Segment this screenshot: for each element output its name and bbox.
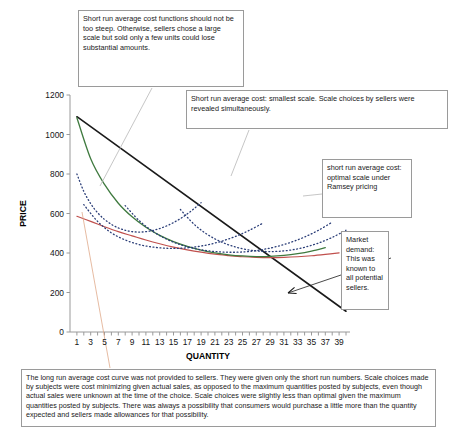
y-axis-tick-label: 1200: [45, 90, 64, 100]
x-axis-tick-label: 21: [210, 337, 220, 347]
curve-market-demand: [77, 117, 346, 312]
y-axis-tick-label: 0: [59, 327, 64, 337]
x-axis-tick-label: 1: [75, 337, 80, 347]
x-axis-tick-label: 23: [224, 337, 234, 347]
x-axis-tick-label: 27: [252, 337, 262, 347]
y-axis-tick-label: 600: [50, 209, 64, 219]
callout-ramsey-optimal-scale: short run average cost: optimal scale un…: [322, 159, 412, 218]
axis-labels-layer: 0200400600800100012001357911131517192123…: [18, 90, 344, 361]
x-axis-tick-label: 25: [238, 337, 248, 347]
y-axis-tick-label: 400: [50, 248, 64, 258]
curve-short-run-average-cost-optimal-scale-under-ramsey-pricing: [77, 118, 325, 257]
x-axis-title: QUANTITY: [186, 351, 230, 361]
smallest-scale-leader: [231, 130, 249, 176]
callout-market-demand: Market demand: This was known to all pot…: [341, 231, 389, 310]
x-axis-tick-label: 17: [183, 337, 193, 347]
callout-short-run-slope-note: Short run average cost functions should …: [78, 10, 244, 87]
y-axis-title: PRICE: [18, 200, 28, 227]
x-axis-tick-label: 15: [169, 337, 179, 347]
y-axis-tick-label: 200: [50, 288, 64, 298]
x-axis-tick-label: 33: [293, 337, 303, 347]
x-axis-tick-label: 35: [307, 337, 317, 347]
x-axis-tick-label: 29: [265, 337, 275, 347]
x-axis-tick-label: 31: [279, 337, 289, 347]
x-axis-tick-label: 9: [130, 337, 135, 347]
x-axis-tick-label: 13: [155, 337, 165, 347]
x-axis-tick-label: 39: [334, 337, 344, 347]
x-axis-tick-label: 19: [196, 337, 206, 347]
ramsey-leader: [303, 194, 322, 196]
curves-layer: [77, 117, 346, 312]
y-axis-tick-label: 1000: [45, 130, 64, 140]
axes-layer: [67, 95, 351, 336]
callout-bottom-explanatory-note: The long run average cost curve was not …: [21, 369, 436, 427]
x-axis-tick-label: 37: [321, 337, 331, 347]
annotations-layer: [82, 88, 391, 368]
x-axis-tick-label: 7: [116, 337, 121, 347]
x-axis-tick-label: 11: [142, 337, 151, 347]
slope-leader: [100, 88, 152, 186]
y-axis-tick-label: 800: [50, 169, 64, 179]
callout-smallest-scale: Short run average cost: smallest scale. …: [186, 90, 448, 129]
x-axis-tick-label: 5: [102, 337, 107, 347]
figure-root: 0200400600800100012001357911131517192123…: [0, 0, 454, 434]
x-axis-tick-label: 3: [88, 337, 93, 347]
